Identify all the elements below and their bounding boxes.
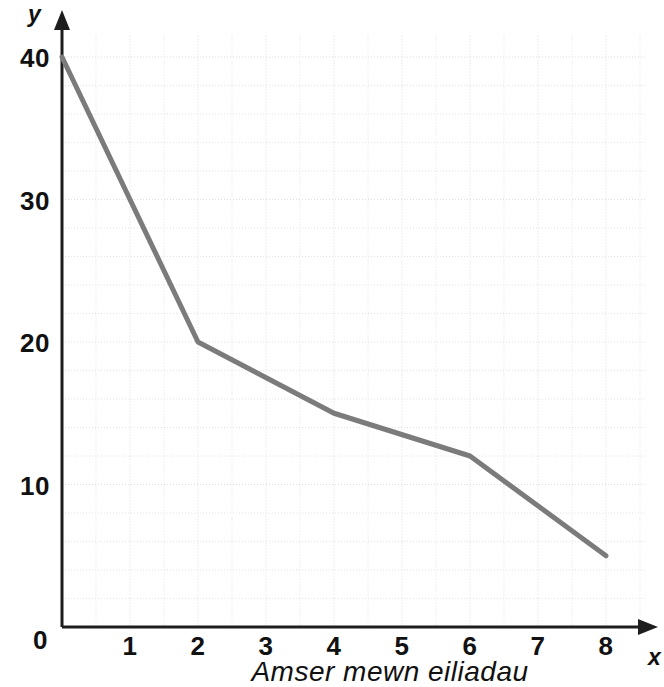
x-tick-label: 2 <box>191 631 206 661</box>
x-axis-arrowhead <box>638 619 658 635</box>
y-tick-label: 0 <box>33 625 48 655</box>
y-axis-symbol-label: y <box>27 1 42 27</box>
x-tick-label: 8 <box>599 631 614 661</box>
y-tick-label: 20 <box>20 328 50 358</box>
x-tick-label: 1 <box>123 631 138 661</box>
y-tick-label: 40 <box>20 43 50 73</box>
x-tick-label: 7 <box>531 631 546 661</box>
y-axis-arrowhead <box>54 10 70 30</box>
y-tick-label: 30 <box>20 186 50 216</box>
y-tick-label: 10 <box>20 471 50 501</box>
chart-canvas: 010203040 12345678 y x Amser mewn eiliad… <box>0 0 664 687</box>
y-axis-tick-labels: 010203040 <box>20 43 50 655</box>
grid-vertical-lines <box>96 36 640 627</box>
x-axis-symbol-label: x <box>646 644 662 670</box>
line-chart: 010203040 12345678 y x Amser mewn eiliad… <box>0 0 664 687</box>
grid-horizontal-lines <box>62 57 647 599</box>
x-axis-title: Amser mewn eiliadau <box>249 656 528 687</box>
